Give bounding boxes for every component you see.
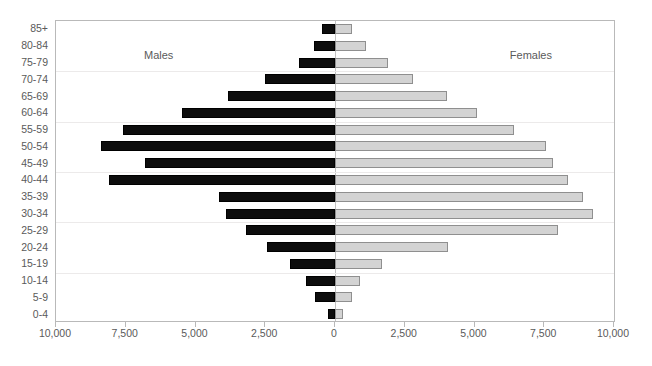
bar-row: [56, 306, 614, 323]
y-axis-tick-label: 0-4: [0, 309, 48, 320]
bar-male: [267, 242, 335, 252]
bar-row: [56, 122, 614, 139]
y-axis-tick-label: 85+: [0, 23, 48, 34]
bar-male: [101, 141, 335, 151]
x-axis-tick-mark: [334, 322, 335, 327]
bar-female: [335, 141, 546, 151]
x-axis-tick-mark: [55, 322, 56, 327]
y-axis-tick-label: 35-39: [0, 191, 48, 202]
bar-female: [335, 58, 388, 68]
bar-row: [56, 256, 614, 273]
bar-female: [335, 108, 477, 118]
bar-female: [335, 276, 360, 286]
bar-female: [335, 74, 413, 84]
x-axis-tick-mark: [543, 322, 544, 327]
x-axis-tick-label: 10,000: [39, 328, 71, 339]
bar-female: [335, 292, 352, 302]
bar-female: [335, 91, 447, 101]
y-axis-tick-label: 20-24: [0, 242, 48, 253]
bar-male: [109, 175, 335, 185]
y-axis-tick-label: 55-59: [0, 124, 48, 135]
series-label-females: Females: [510, 49, 552, 61]
bar-row: [56, 71, 614, 88]
x-axis-tick-mark: [125, 322, 126, 327]
x-axis-tick-label: 7,500: [112, 328, 138, 339]
x-axis-tick-label: 7,500: [530, 328, 556, 339]
bar-male: [182, 108, 335, 118]
x-axis-tick-label: 2,500: [251, 328, 277, 339]
x-axis-tick-label: 5,000: [460, 328, 486, 339]
bar-female: [335, 242, 448, 252]
x-axis-tick-label: 10,000: [597, 328, 629, 339]
bar-row: [56, 189, 614, 206]
bar-female: [335, 125, 514, 135]
bar-male: [219, 192, 335, 202]
x-axis-tick-label: 2,500: [391, 328, 417, 339]
y-axis-tick-label: 5-9: [0, 292, 48, 303]
bar-row: [56, 88, 614, 105]
bar-male: [315, 292, 335, 302]
y-axis-tick-label: 75-79: [0, 57, 48, 68]
y-axis-tick-label: 80-84: [0, 40, 48, 51]
bar-male: [290, 259, 335, 269]
bar-row: [56, 239, 614, 256]
bar-row: [56, 138, 614, 155]
x-axis-tick-labels: 10,0007,5005,0002,50002,5005,0007,50010,…: [0, 328, 652, 348]
bar-male: [306, 276, 335, 286]
y-axis-tick-label: 15-19: [0, 258, 48, 269]
bar-female: [335, 158, 553, 168]
x-axis-tick-mark: [195, 322, 196, 327]
bar-male: [246, 225, 335, 235]
x-axis-tick-label: 0: [331, 328, 337, 339]
y-axis-tick-label: 40-44: [0, 174, 48, 185]
x-axis-tick-label: 5,000: [181, 328, 207, 339]
x-axis-tick-mark: [474, 322, 475, 327]
bar-row: [56, 273, 614, 290]
bar-female: [335, 259, 382, 269]
bar-female: [335, 209, 593, 219]
bar-female: [335, 309, 343, 319]
bar-row: [56, 289, 614, 306]
y-axis-tick-labels: 85+80-8475-7970-7465-6960-6455-5950-5445…: [0, 20, 52, 322]
y-axis-tick-label: 70-74: [0, 74, 48, 85]
y-axis-tick-label: 45-49: [0, 158, 48, 169]
y-axis-tick-label: 30-34: [0, 208, 48, 219]
bar-male: [328, 309, 335, 319]
bar-female: [335, 41, 366, 51]
bar-male: [322, 24, 335, 34]
bar-male: [265, 74, 335, 84]
bar-row: [56, 206, 614, 223]
bar-male: [228, 91, 335, 101]
bar-row: [56, 155, 614, 172]
y-axis-tick-label: 10-14: [0, 275, 48, 286]
y-axis-tick-label: 65-69: [0, 91, 48, 102]
bar-row: [56, 222, 614, 239]
bar-male: [145, 158, 335, 168]
population-pyramid-chart: 85+80-8475-7970-7465-6960-6455-5950-5445…: [0, 0, 652, 366]
y-axis-tick-label: 25-29: [0, 225, 48, 236]
bar-row: [56, 105, 614, 122]
bar-row: [56, 172, 614, 189]
bar-row: [56, 21, 614, 38]
bar-male: [299, 58, 335, 68]
y-axis-tick-label: 50-54: [0, 141, 48, 152]
bar-female: [335, 192, 583, 202]
bar-female: [335, 175, 568, 185]
bar-female: [335, 24, 352, 34]
x-axis-tick-mark: [404, 322, 405, 327]
bar-male: [314, 41, 335, 51]
bar-male: [226, 209, 335, 219]
y-axis-tick-label: 60-64: [0, 107, 48, 118]
plot-area: Males Females: [55, 20, 615, 322]
bar-female: [335, 225, 558, 235]
series-label-males: Males: [144, 49, 173, 61]
bar-male: [123, 125, 335, 135]
x-axis-tick-mark: [613, 322, 614, 327]
x-axis-tick-mark: [264, 322, 265, 327]
